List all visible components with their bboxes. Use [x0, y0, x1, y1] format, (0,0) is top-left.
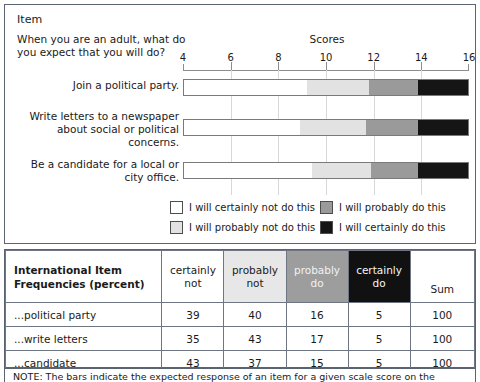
table-header-row: International Item Frequencies (percent)… [6, 251, 475, 303]
bar-segment [184, 120, 300, 135]
item-title: Item [17, 13, 42, 26]
bar-category-label: Be a candidate for a local or city offic… [11, 158, 179, 184]
data-cell: 43 [224, 327, 286, 351]
column-header-line1: certainly [349, 264, 410, 277]
data-cell: 17 [286, 327, 348, 351]
data-cell: 35 [162, 327, 224, 351]
table-row: ...political party3940165100 [6, 303, 475, 327]
column-header-probably-do: probably do [286, 251, 348, 303]
data-cell: 5 [348, 327, 410, 351]
column-header-certainly-not: certainly not [162, 251, 224, 303]
data-cell: 5 [348, 303, 410, 327]
column-header-line1: probably [287, 264, 348, 277]
bar-segment [184, 80, 307, 95]
column-header-line2: not [162, 277, 223, 290]
bar-segment [307, 80, 369, 95]
bar-segment [369, 80, 419, 95]
column-header-line1: certainly [162, 264, 223, 277]
chart-legend: I will certainly not do thisI will proba… [170, 197, 470, 237]
legend-label: I will certainly not do this [189, 202, 315, 213]
bar-category-label: Join a political party. [11, 79, 179, 92]
note-panel: NOTE: The bars indicate the expected res… [4, 368, 476, 382]
frequency-table: International Item Frequencies (percent)… [5, 250, 475, 375]
stacked-bar [183, 79, 469, 96]
axis-tick [374, 62, 375, 70]
column-header-sum: Sum [410, 251, 474, 303]
axis-tick [231, 62, 232, 70]
legend-swatch [320, 201, 333, 214]
axis-endcap [183, 64, 184, 71]
bar-segment [366, 120, 418, 135]
bar-segment [371, 163, 418, 178]
stacked-bar [183, 162, 469, 179]
bar-segment [418, 163, 468, 178]
bar-segment [418, 120, 468, 135]
data-cell: 40 [224, 303, 286, 327]
column-header-line2: not [224, 277, 285, 290]
question-text: When you are an adult, what do you expec… [17, 33, 187, 59]
axis-endcap [468, 64, 469, 71]
table-body: ...political party3940165100...write let… [6, 303, 475, 375]
legend-label: I will certainly do this [339, 222, 446, 233]
frequency-table-panel: International Item Frequencies (percent)… [4, 249, 476, 368]
legend-swatch [320, 221, 333, 234]
stacked-bar [183, 119, 469, 136]
column-header-line1: probably [224, 264, 285, 277]
column-header-probably-not: probably not [224, 251, 286, 303]
axis-tick [278, 62, 279, 70]
legend-item: I will certainly do this [320, 221, 470, 234]
note-text: NOTE: The bars indicate the expected res… [13, 371, 435, 382]
legend-item: I will certainly not do this [170, 201, 320, 214]
column-header-line2: do [287, 277, 348, 290]
scores-axis-title: Scores [181, 33, 473, 45]
bar-segment [418, 80, 468, 95]
data-cell: 100 [410, 303, 474, 327]
column-header-certainly-do: certainly do [348, 251, 410, 303]
data-cell: 16 [286, 303, 348, 327]
bar-segment [184, 163, 312, 178]
legend-swatch [170, 201, 183, 214]
legend-swatch [170, 221, 183, 234]
legend-item: I will probably not do this [170, 221, 320, 234]
table-row: ...write letters3543175100 [6, 327, 475, 351]
data-cell: 100 [410, 327, 474, 351]
legend-item: I will probably do this [320, 201, 470, 214]
bar-category-label: Write letters to a newspaper about socia… [11, 110, 179, 149]
axis-tick [326, 62, 327, 70]
plot-area [183, 62, 469, 195]
legend-label: I will probably do this [339, 202, 446, 213]
column-header-line2: do [349, 277, 410, 290]
table-corner-label: International Item Frequencies (percent) [6, 251, 162, 303]
row-label-cell: ...political party [6, 303, 162, 327]
bar-segment [300, 120, 366, 135]
table-head: International Item Frequencies (percent)… [6, 251, 475, 303]
row-label-cell: ...write letters [6, 327, 162, 351]
legend-label: I will probably not do this [189, 222, 315, 233]
axis-tick [421, 62, 422, 70]
data-cell: 39 [162, 303, 224, 327]
bar-segment [312, 163, 371, 178]
